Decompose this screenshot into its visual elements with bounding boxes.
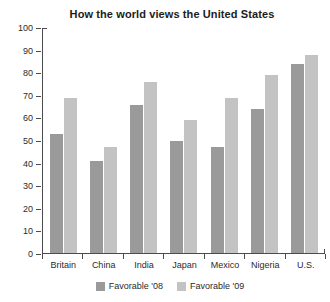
bar-group bbox=[285, 28, 325, 253]
x-axis-label-china: China bbox=[83, 260, 123, 270]
chart-legend: Favorable '08Favorable '09 bbox=[0, 281, 330, 291]
bar-group bbox=[124, 28, 164, 253]
bar-chart: How the world views the United States 01… bbox=[0, 0, 330, 302]
bar bbox=[90, 161, 103, 253]
bar bbox=[225, 98, 238, 253]
bar bbox=[64, 98, 77, 253]
x-axis-label-japan: Japan bbox=[164, 260, 204, 270]
y-axis-tick bbox=[36, 51, 41, 52]
y-axis-tick bbox=[36, 28, 41, 29]
y-axis-tick bbox=[36, 164, 41, 165]
y-axis-tick-label: 80 bbox=[23, 68, 33, 78]
y-axis-tick-label: 20 bbox=[23, 204, 33, 214]
y-axis-tick bbox=[36, 254, 41, 255]
bar bbox=[265, 75, 278, 253]
bar-group bbox=[244, 28, 284, 253]
y-axis-tick-label: 40 bbox=[23, 159, 33, 169]
bar bbox=[291, 64, 304, 253]
y-axis-tick-label: 60 bbox=[23, 113, 33, 123]
legend-label: Favorable '09 bbox=[190, 281, 244, 291]
y-axis-tick bbox=[36, 209, 41, 210]
x-axis-label-india: India bbox=[124, 260, 164, 270]
y-axis-tick bbox=[36, 186, 41, 187]
bar bbox=[305, 55, 318, 253]
y-axis-tick-label: 0 bbox=[28, 249, 33, 259]
y-axis-tick-label: 10 bbox=[23, 226, 33, 236]
bar-group bbox=[43, 28, 83, 253]
bar-group bbox=[164, 28, 204, 253]
bar bbox=[184, 120, 197, 253]
y-axis-tick-label: 50 bbox=[23, 136, 33, 146]
bar bbox=[104, 147, 117, 253]
y-axis-tick-label: 90 bbox=[23, 46, 33, 56]
x-axis-tick bbox=[204, 254, 205, 259]
bar bbox=[251, 109, 264, 253]
x-axis-tick bbox=[163, 254, 164, 259]
y-axis-tick bbox=[36, 118, 41, 119]
y-axis-tick bbox=[36, 96, 41, 97]
legend-swatch-icon bbox=[177, 282, 186, 291]
y-axis-tick-label: 100 bbox=[18, 23, 33, 33]
plot-area: 0102030405060708090100 bbox=[42, 28, 325, 254]
legend-item[interactable]: Favorable '08 bbox=[96, 281, 163, 291]
chart-title: How the world views the United States bbox=[0, 8, 330, 20]
y-axis-tick bbox=[36, 231, 41, 232]
x-axis-tick bbox=[82, 254, 83, 259]
legend-label: Favorable '08 bbox=[109, 281, 163, 291]
bar bbox=[130, 105, 143, 254]
legend-item[interactable]: Favorable '09 bbox=[177, 281, 244, 291]
x-axis-tick bbox=[42, 254, 43, 259]
x-axis-tick bbox=[285, 254, 286, 259]
x-axis-tick bbox=[325, 254, 326, 259]
x-axis-labels: BritainChinaIndiaJapanMexicoNigeriaU.S. bbox=[43, 260, 326, 270]
bar-group bbox=[204, 28, 244, 253]
x-axis-label-mexico: Mexico bbox=[205, 260, 245, 270]
legend-swatch-icon bbox=[96, 282, 105, 291]
x-axis-tick bbox=[244, 254, 245, 259]
bar-groups bbox=[43, 28, 325, 253]
y-axis-tick bbox=[36, 73, 41, 74]
bar-group bbox=[83, 28, 123, 253]
bar bbox=[211, 147, 224, 253]
bar bbox=[170, 141, 183, 254]
y-axis-tick-label: 30 bbox=[23, 181, 33, 191]
x-axis-label-britain: Britain bbox=[43, 260, 83, 270]
x-axis-tick bbox=[123, 254, 124, 259]
y-axis-tick bbox=[36, 141, 41, 142]
bar bbox=[50, 134, 63, 253]
x-axis-label-u-s: U.S. bbox=[286, 260, 326, 270]
bar bbox=[144, 82, 157, 253]
x-axis-label-nigeria: Nigeria bbox=[245, 260, 285, 270]
y-axis-tick-label: 70 bbox=[23, 91, 33, 101]
